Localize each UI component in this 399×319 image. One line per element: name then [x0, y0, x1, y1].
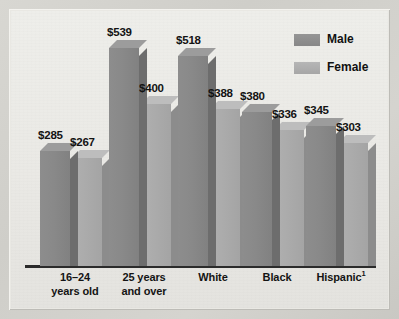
- male-swatch-icon: [294, 34, 320, 46]
- plot-area: $267$285$400$539$388$518$336$380$303$345: [25, 23, 375, 266]
- bar-male-1: [109, 48, 139, 266]
- bar-top-face: [178, 48, 216, 56]
- bar-side-face: [272, 112, 280, 266]
- value-label-female-4: $303: [336, 121, 361, 133]
- value-label-male-1: $539: [107, 26, 132, 38]
- bar-side-face: [139, 48, 147, 266]
- bar-male-3: [242, 112, 272, 266]
- chart-screenshot: $267$285$400$539$388$518$336$380$303$345…: [0, 0, 399, 319]
- category-label-line: and over: [99, 285, 189, 299]
- value-label-female-1: $400: [139, 82, 164, 94]
- category-label-4: Hispanic1: [296, 271, 386, 285]
- bar-side-face: [336, 126, 344, 266]
- bar-front-face: [40, 151, 70, 266]
- bar-male-2: [178, 56, 208, 266]
- bar-front-face: [178, 56, 208, 266]
- bar-front-face: [242, 112, 272, 266]
- value-label-male-3: $380: [240, 90, 265, 102]
- value-label-male-4: $345: [304, 104, 329, 116]
- legend-label-female: Female: [327, 60, 368, 74]
- bar-top-face: [109, 40, 147, 48]
- bar-side-face: [368, 143, 376, 266]
- female-swatch-icon: [294, 62, 320, 74]
- bar-front-face: [306, 126, 336, 266]
- bar-male-4: [306, 126, 336, 266]
- bar-male-0: [40, 151, 70, 266]
- bar-front-face: [109, 48, 139, 266]
- value-label-male-2: $518: [176, 34, 201, 46]
- value-label-female-2: $388: [208, 87, 233, 99]
- value-label-female-3: $336: [272, 108, 297, 120]
- value-label-female-0: $267: [70, 136, 95, 148]
- bar-side-face: [70, 151, 78, 266]
- value-label-male-0: $285: [38, 129, 63, 141]
- chart-surface: $267$285$400$539$388$518$336$380$303$345…: [11, 11, 388, 308]
- legend-label-male: Male: [327, 32, 354, 46]
- category-label-line: Hispanic1: [296, 271, 386, 285]
